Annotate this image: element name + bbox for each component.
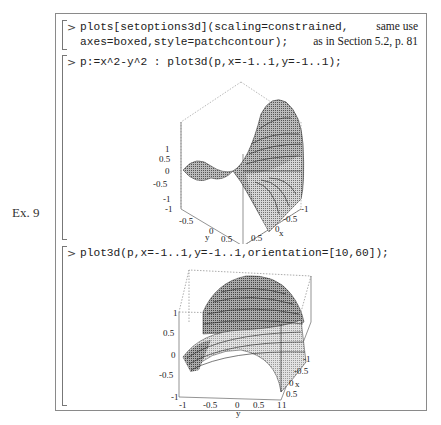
x-tick: 1 xyxy=(282,400,287,410)
z-tick: -1 xyxy=(171,392,179,402)
z-tick: -1 xyxy=(163,194,171,204)
y-tick: 0.5 xyxy=(221,234,233,244)
z-tick: -0.5 xyxy=(153,179,168,189)
y-axis-label: y xyxy=(205,232,210,242)
y-tick: 1 xyxy=(277,400,282,410)
prompt-symbol: > xyxy=(67,56,76,69)
plot3d-saddle-oriented: 1 0.5 0 -0.5 -1 -1 -0.5 0 y 0.5 1 1 0.5 … xyxy=(141,262,331,422)
x-axis-label: x xyxy=(295,379,300,389)
z-tick: -0.5 xyxy=(159,370,174,380)
margin-note-line2: as in Section 5.2, p. 81 xyxy=(313,35,418,47)
x-tick: 0.5 xyxy=(251,233,263,243)
prompt-symbol: > xyxy=(67,247,76,260)
command-line[interactable]: plots[setoptions3d](scaling=constrained, xyxy=(80,21,349,33)
execution-group-plot1: > p:=x^2-y^2 : plot3d(p,x=-1..1,y=-1..1)… xyxy=(62,55,63,240)
y-tick: -1 xyxy=(165,204,173,214)
command-line[interactable]: plot3d(p,x=-1..1,y=-1..1,orientation=[10… xyxy=(80,247,389,259)
z-tick: 0.5 xyxy=(163,328,175,338)
z-tick: 1 xyxy=(173,308,178,318)
margin-note-line1: same use xyxy=(376,20,418,32)
command-line[interactable]: p:=x^2-y^2 : plot3d(p,x=-1..1,y=-1..1); xyxy=(80,56,342,68)
z-tick: 0.5 xyxy=(159,154,171,164)
y-tick: 0.5 xyxy=(253,400,265,410)
y-tick: -1 xyxy=(179,400,187,410)
execution-group-setoptions: > plots[setoptions3d](scaling=constraine… xyxy=(62,20,63,50)
execution-group-plot2: > plot3d(p,x=-1..1,y=-1..1,orientation=[… xyxy=(62,246,63,406)
z-tick: 0 xyxy=(165,166,170,176)
plot3d-saddle-default: 1 0.5 0 -0.5 -1 -1 -0.5 0 y 0.5 1 1 0.5 … xyxy=(151,74,331,244)
y-axis-label: y xyxy=(236,408,241,418)
x-tick: -1 xyxy=(303,354,311,364)
y-tick: -0.5 xyxy=(203,400,218,410)
x-tick: -1 xyxy=(301,204,309,214)
prompt-symbol: > xyxy=(67,21,76,34)
x-axis-label: x xyxy=(279,228,284,238)
x-tick: -0.5 xyxy=(283,214,298,224)
y-tick: -0.5 xyxy=(179,216,194,226)
example-label: Ex. 9 xyxy=(12,205,39,221)
command-line[interactable]: axes=boxed,style=patchcontour); xyxy=(80,36,288,48)
x-tick: 0 xyxy=(289,378,294,388)
x-tick: 0.5 xyxy=(286,389,298,399)
y-tick: 0 xyxy=(209,226,214,236)
z-tick: 0 xyxy=(171,350,176,360)
maple-worksheet-frame: > plots[setoptions3d](scaling=constraine… xyxy=(55,13,427,411)
x-tick: -0.5 xyxy=(294,366,309,376)
z-tick: 1 xyxy=(165,144,170,154)
